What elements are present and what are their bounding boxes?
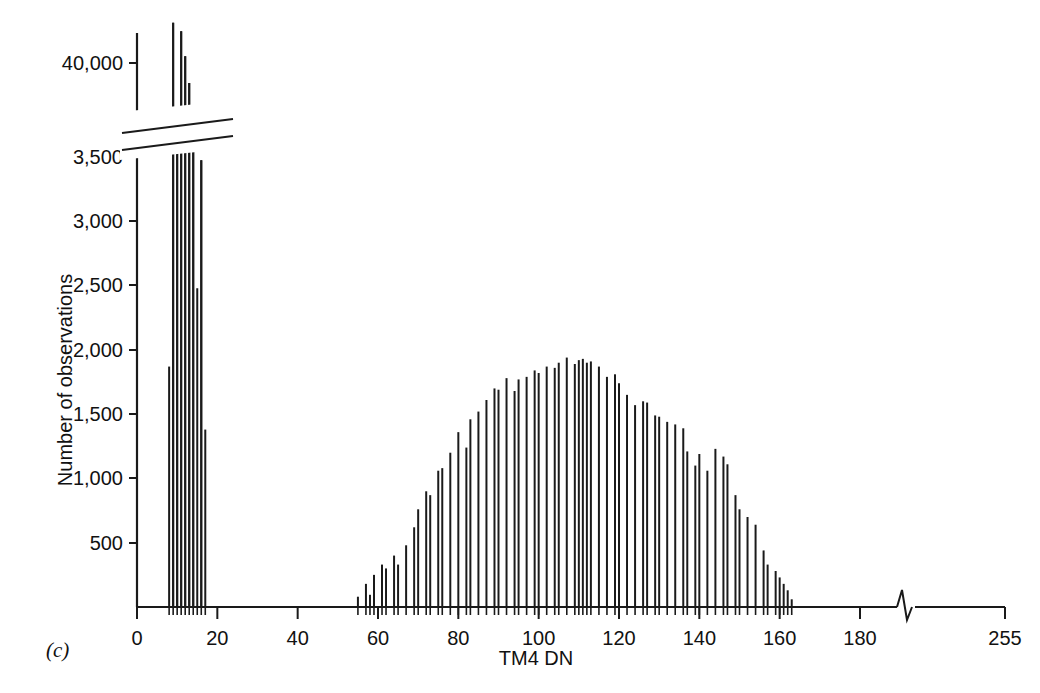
histogram-bars <box>169 23 792 607</box>
x-axis-break-symbol <box>897 590 912 620</box>
y-axis-title: Number of observations <box>54 274 76 486</box>
panel-caption: (c) <box>46 638 69 662</box>
x-ticklabel-80: 80 <box>447 627 469 649</box>
x-axis-major-ticks <box>137 607 1005 619</box>
y-ticklabel-1000: 1,000 <box>73 467 123 489</box>
x-ticklabel-60: 60 <box>367 627 389 649</box>
y-ticklabel-2500: 2,500 <box>73 274 123 296</box>
x-ticklabel-0: 0 <box>131 627 142 649</box>
x-ticklabel-160: 160 <box>763 627 796 649</box>
y-ticklabel-500: 500 <box>90 532 123 554</box>
histogram-chart-canvas: 40,000 3,500 3,000 2,500 2,000 1,500 1,0… <box>0 0 1040 693</box>
x-ticklabel-20: 20 <box>206 627 228 649</box>
y-ticklabel-3000: 3,000 <box>73 210 123 232</box>
x-ticklabel-180: 180 <box>843 627 876 649</box>
x-ticklabel-255: 255 <box>988 627 1021 649</box>
x-axis-ticklabels: 020406080100120140160180255 <box>131 627 1021 649</box>
y-ticklabel-40000: 40,000 <box>62 52 123 74</box>
y-ticklabel-1500: 1,500 <box>73 403 123 425</box>
x-ticklabel-100: 100 <box>522 627 555 649</box>
x-ticklabel-140: 140 <box>683 627 716 649</box>
x-axis-title: TM4 DN <box>499 647 573 669</box>
histogram-figure: 40,000 3,500 3,000 2,500 2,000 1,500 1,0… <box>0 0 1040 693</box>
x-ticklabel-40: 40 <box>287 627 309 649</box>
y-ticklabel-2000: 2,000 <box>73 339 123 361</box>
y-ticklabel-3500: 3,500 <box>73 146 123 168</box>
x-ticklabel-120: 120 <box>602 627 635 649</box>
